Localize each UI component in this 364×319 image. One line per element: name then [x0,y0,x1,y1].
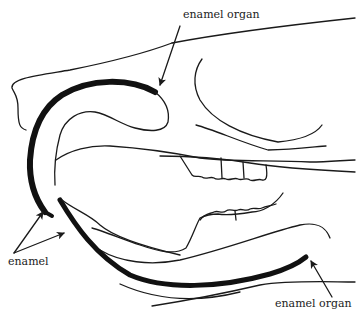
lower-molars [200,204,276,220]
label-enamel: enamel [8,255,49,268]
label-enamel-organ-bottom: enamel organ [275,297,352,310]
skull-top-line [172,18,355,43]
upper-enamel-tip [45,212,52,216]
upper-molar-divider-1 [221,158,222,178]
lower-enamel-band [60,200,306,285]
label-enamel-organ-top: enamel organ [183,8,260,21]
diagram-canvas: enamel organ enamel enamel organ [0,0,364,319]
orbit-curve [195,59,322,142]
upper-enamel-organ [55,92,169,185]
upper-inner-line [56,146,355,162]
arrow-enamel-organ-bottom [311,261,332,297]
arrow-enamel-organ-top [160,26,180,85]
incisor-diagram [0,0,364,319]
lower-jaw-inner [92,193,283,252]
lower-molar-divider [235,211,236,220]
upper-molar-divider-2 [243,162,244,178]
